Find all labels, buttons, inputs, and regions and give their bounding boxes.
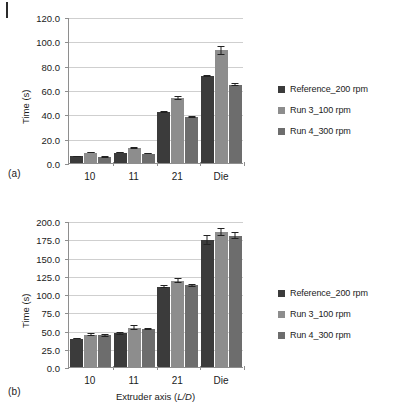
legend-item[interactable]: Reference_200 rpm <box>278 288 368 298</box>
x-tick-label: 10 <box>68 171 112 182</box>
x-tickmark <box>200 162 201 166</box>
error-bar-cap <box>117 152 124 153</box>
legend-item[interactable]: Reference_200 rpm <box>278 84 368 94</box>
x-tick-label: Die <box>199 375 243 386</box>
bar <box>98 157 111 163</box>
error-bar <box>134 147 135 149</box>
bar-fill <box>185 117 198 163</box>
legend-item[interactable]: Run 3_100 rpm <box>278 105 368 115</box>
bar-fill <box>215 50 228 163</box>
legend-swatch-icon <box>278 332 285 339</box>
x-tick-label: 10 <box>68 375 112 386</box>
legend-label: Run 3_100 rpm <box>290 309 351 319</box>
bar <box>70 339 83 367</box>
bar-fill <box>157 112 170 163</box>
error-bar <box>221 228 222 237</box>
bar <box>114 333 127 367</box>
legend-item[interactable]: Run 4_300 rpm <box>278 330 368 340</box>
error-bar <box>104 156 105 157</box>
error-bar-cap <box>73 156 80 157</box>
error-bar <box>148 153 149 154</box>
error-bar-cap <box>101 336 108 337</box>
y-tick-label: 0.0 <box>0 363 60 374</box>
bar-fill <box>157 287 170 367</box>
bar-group <box>69 18 113 163</box>
y-tickmark <box>65 164 69 165</box>
y-tick-label: 20.0 <box>0 134 60 145</box>
error-bar-cap <box>188 284 195 285</box>
legend-label: Run 4_300 rpm <box>290 126 351 136</box>
bar <box>114 153 127 163</box>
error-bar-cap <box>101 334 108 335</box>
error-bar-cap <box>160 287 167 288</box>
bar-group <box>113 222 157 367</box>
legend-swatch-icon <box>278 107 285 114</box>
panel-tag-b: (b) <box>8 386 21 397</box>
y-tick-label: 200.0 <box>0 217 60 228</box>
x-tick-label: Die <box>199 171 243 182</box>
bar <box>229 85 242 163</box>
chart-panel-b: Time (s) 0.025.050.075.0100.0125.0150.01… <box>0 208 403 413</box>
x-tick-label: 21 <box>156 375 200 386</box>
error-bar-cap <box>117 334 124 335</box>
error-bar-cap <box>232 85 239 86</box>
y-tick-label: 40.0 <box>0 110 60 121</box>
error-bar-cap <box>160 112 167 113</box>
bar-fill <box>70 156 83 163</box>
bar-group <box>200 18 244 163</box>
bar <box>128 328 141 367</box>
x-tickmark <box>200 366 201 370</box>
y-tick-label: 25.0 <box>0 344 60 355</box>
error-bar-cap <box>188 286 195 287</box>
bar <box>215 50 228 163</box>
error-bar <box>90 333 91 336</box>
bar-fill <box>229 85 242 163</box>
legend-label: Reference_200 rpm <box>290 84 368 94</box>
error-bar-cap <box>131 325 138 326</box>
error-bar-cap <box>232 238 239 239</box>
error-bar-cap <box>73 338 80 339</box>
y-tick-label: 60.0 <box>0 86 60 97</box>
bar-fill <box>98 335 111 367</box>
bar-fill <box>128 148 141 163</box>
legend-item[interactable]: Run 4_300 rpm <box>278 126 368 136</box>
error-bar-cap <box>101 157 108 158</box>
legend-swatch-icon <box>278 311 285 318</box>
legend-item[interactable]: Run 3_100 rpm <box>278 309 368 319</box>
error-bar-cap <box>218 228 225 229</box>
error-bar-cap <box>117 332 124 333</box>
bar <box>201 76 214 163</box>
error-bar-cap <box>87 333 94 334</box>
error-bar-cap <box>145 329 152 330</box>
x-tickmark <box>157 366 158 370</box>
legend-label: Run 3_100 rpm <box>290 105 351 115</box>
error-bar-cap <box>204 244 211 245</box>
legend-label: Reference_200 rpm <box>290 288 368 298</box>
y-tick-label: 150.0 <box>0 253 60 264</box>
bar-fill <box>84 153 97 163</box>
error-bar-cap <box>218 54 225 55</box>
legend-a: Reference_200 rpmRun 3_100 rpmRun 4_300 … <box>278 84 368 147</box>
bar <box>98 335 111 367</box>
bar-group <box>156 18 200 163</box>
error-bar-cap <box>218 46 225 47</box>
legend-swatch-icon <box>278 290 285 297</box>
y-tick-label: 100.0 <box>0 37 60 48</box>
bar <box>142 329 155 367</box>
bar <box>185 117 198 163</box>
error-bar <box>76 156 77 157</box>
bar <box>157 287 170 367</box>
error-bar-cap <box>131 329 138 330</box>
x-tickmark <box>244 366 245 370</box>
bar-fill <box>142 329 155 367</box>
bar-group <box>200 222 244 367</box>
bar-fill <box>114 333 127 367</box>
legend-swatch-icon <box>278 86 285 93</box>
error-bar-cap <box>145 153 152 154</box>
bar-fill <box>84 335 97 367</box>
bar <box>171 98 184 163</box>
error-bar-cap <box>174 282 181 283</box>
error-bar <box>235 83 236 86</box>
x-tick-label: 11 <box>112 375 156 386</box>
error-bar-cap <box>160 285 167 286</box>
